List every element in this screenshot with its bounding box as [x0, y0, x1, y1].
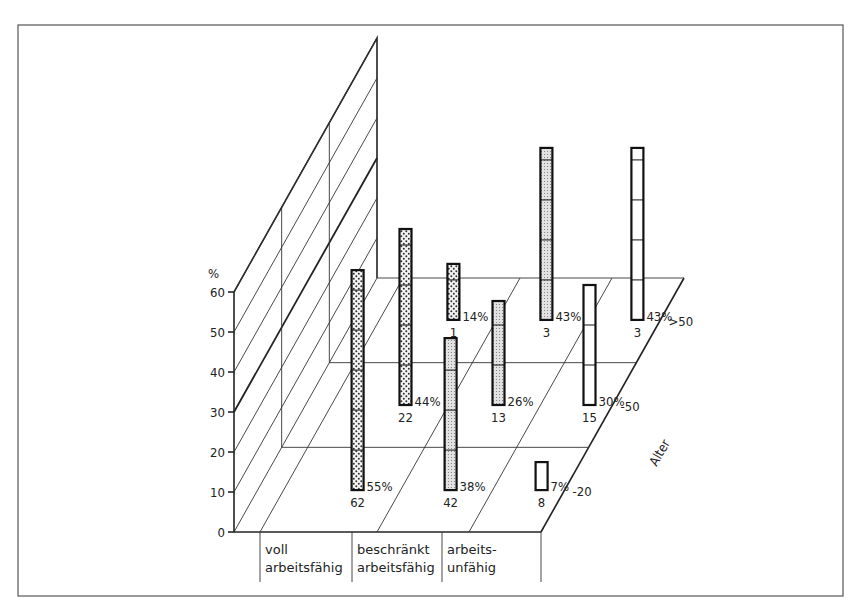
bar: 14%1: [447, 264, 488, 340]
figure-frame: [18, 25, 843, 596]
y-tick-label: 30: [210, 405, 225, 420]
y-tick-label: 60: [210, 285, 225, 300]
y-axis-unit: %: [208, 266, 219, 281]
chart-canvas: 0102030405060% 14%143%343%344%2226%1330%…: [0, 0, 863, 613]
y-tick-label: 40: [210, 365, 225, 380]
bar: 43%3: [631, 148, 672, 340]
bar-count-label: 62: [350, 495, 365, 510]
bar: 30%15: [582, 285, 624, 425]
wall-gridline: [234, 38, 377, 292]
y-tick-label: 10: [210, 485, 225, 500]
bar-count-label: 3: [543, 325, 550, 340]
y-tick-label: 0: [218, 525, 225, 540]
age-group-label: -50: [621, 399, 640, 414]
bar-count-label: 3: [634, 325, 641, 340]
category-label-line2: arbeitsfähig: [265, 560, 343, 575]
y-axis: 0102030405060%: [208, 266, 234, 540]
age-group-label: -20: [573, 484, 592, 499]
bar: 7%8: [536, 462, 570, 510]
bar-percent-label: 43%: [555, 309, 581, 324]
bar-count-label: 22: [398, 410, 413, 425]
bar-percent-label: 26%: [508, 394, 534, 409]
age-axis-title: Alter: [646, 437, 673, 469]
category-axis: vollarbeitsfähigbeschränktarbeitsfähigar…: [260, 532, 541, 582]
bar-percent-label: 38%: [460, 479, 486, 494]
bar-percent-label: 55%: [367, 479, 393, 494]
bar-percent-label: 14%: [462, 309, 488, 324]
category-label-line2: unfähig: [447, 560, 496, 575]
bar-count-label: 8: [538, 495, 545, 510]
bar-count-label: 42: [443, 495, 458, 510]
bar: 44%22: [398, 229, 440, 425]
bar: 43%3: [540, 148, 581, 340]
category-label-line1: beschränkt: [357, 542, 430, 557]
bar-count-label: 15: [582, 410, 597, 425]
bar: 38%42: [443, 338, 485, 510]
age-group-label: >50: [668, 314, 693, 329]
category-label-line1: arbeits-: [447, 542, 497, 557]
y-tick-label: 50: [210, 325, 225, 340]
y-tick-label: 20: [210, 445, 225, 460]
bar-percent-label: 44%: [415, 394, 441, 409]
bar-percent-label: 7%: [551, 479, 570, 494]
bar-count-label: 13: [491, 410, 506, 425]
bar: 55%62: [350, 270, 392, 510]
category-label-line1: voll: [265, 542, 288, 557]
bars: 14%143%343%344%2226%1330%1555%6238%427%8: [350, 148, 672, 510]
category-label-line2: arbeitsfähig: [357, 560, 435, 575]
